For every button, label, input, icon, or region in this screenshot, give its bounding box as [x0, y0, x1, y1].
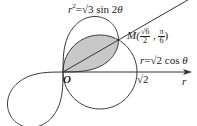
- point-m-label: M(√62 , π6): [127, 28, 168, 45]
- lemniscate-equation-label: r2=√3 sin 2θ: [68, 2, 123, 15]
- shaded-region: [63, 35, 118, 72]
- circle-equation-label: r=√2 cos θ: [140, 54, 188, 66]
- axis-label: r: [182, 75, 186, 87]
- origin-label: O: [63, 73, 71, 85]
- sqrt2-tick-label: √2: [137, 73, 149, 85]
